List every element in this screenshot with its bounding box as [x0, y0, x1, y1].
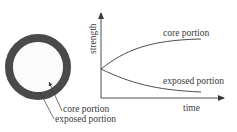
- x-axis-label: time: [183, 103, 200, 113]
- core-curve: [101, 39, 201, 69]
- y-axis-label: strength: [88, 23, 98, 54]
- core-curve-label: core portion: [163, 28, 209, 38]
- ring-exposed-label: exposed portion: [55, 114, 116, 124]
- diagram-canvas: core portion exposed portion strength ti…: [0, 0, 237, 132]
- core-area: [14, 43, 63, 92]
- ring-cross-section: [9, 38, 67, 96]
- ring-core-label: core portion: [63, 104, 109, 114]
- exposed-curve-label: exposed portion: [163, 76, 224, 86]
